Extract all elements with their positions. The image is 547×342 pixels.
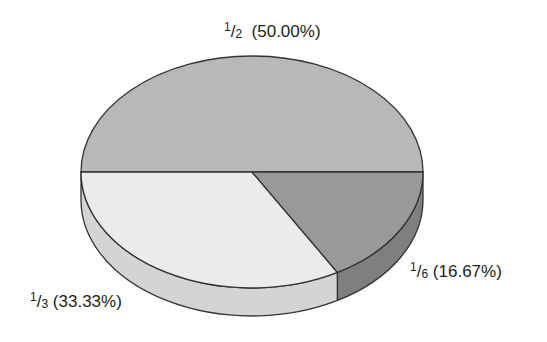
slice-1-2 bbox=[81, 56, 423, 172]
label-half: 1/2 (50.00%) bbox=[224, 20, 321, 42]
label-third: 1/3 (33.33%) bbox=[30, 290, 122, 312]
label-sixth: 1/6 (16.67%) bbox=[410, 260, 502, 282]
